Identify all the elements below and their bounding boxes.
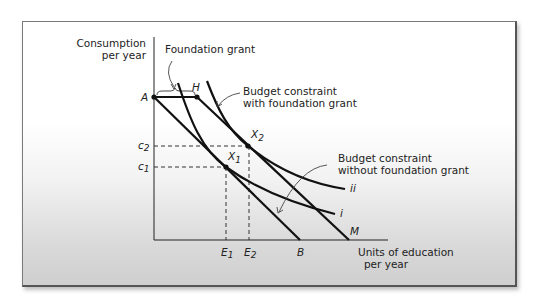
y-axis-label-line2: per year — [102, 49, 147, 61]
foundation-grant-arrow — [168, 61, 174, 87]
y-axis-label-line1: Consumption — [76, 37, 146, 49]
point-X2 — [245, 143, 250, 148]
label-c1: c1 — [138, 160, 150, 174]
point-H — [194, 94, 199, 99]
label-E1: E1 — [221, 246, 233, 260]
label-H: H — [192, 81, 200, 93]
label-A: A — [140, 91, 148, 103]
label-curve-ii: ii — [350, 182, 356, 194]
label-X1: X1 — [227, 150, 241, 165]
label-c2: c2 — [138, 139, 150, 153]
foundation-grant-label: Foundation grant — [165, 43, 255, 55]
bc-without-grant-line1: Budget constraint — [338, 152, 432, 164]
x-axis-label-line2: per year — [364, 258, 409, 270]
point-X1 — [223, 164, 228, 169]
bc-with-grant-line1: Budget constraint — [243, 85, 337, 97]
budget-constraint-diagram: Consumption per year Units of education … — [0, 0, 539, 307]
budget-line-with-grant — [197, 97, 349, 240]
point-A — [151, 94, 156, 99]
label-curve-i: i — [340, 207, 343, 219]
label-B: B — [297, 246, 304, 258]
label-X2: X2 — [250, 128, 264, 143]
bc-without-grant-line2: without foundation grant — [338, 164, 469, 176]
grant-brace — [157, 88, 195, 95]
bc-with-grant-line2: with foundation grant — [243, 97, 357, 109]
label-E2: E2 — [244, 246, 257, 260]
label-M: M — [350, 225, 359, 237]
x-axis-label-line1: Units of education — [358, 246, 454, 258]
